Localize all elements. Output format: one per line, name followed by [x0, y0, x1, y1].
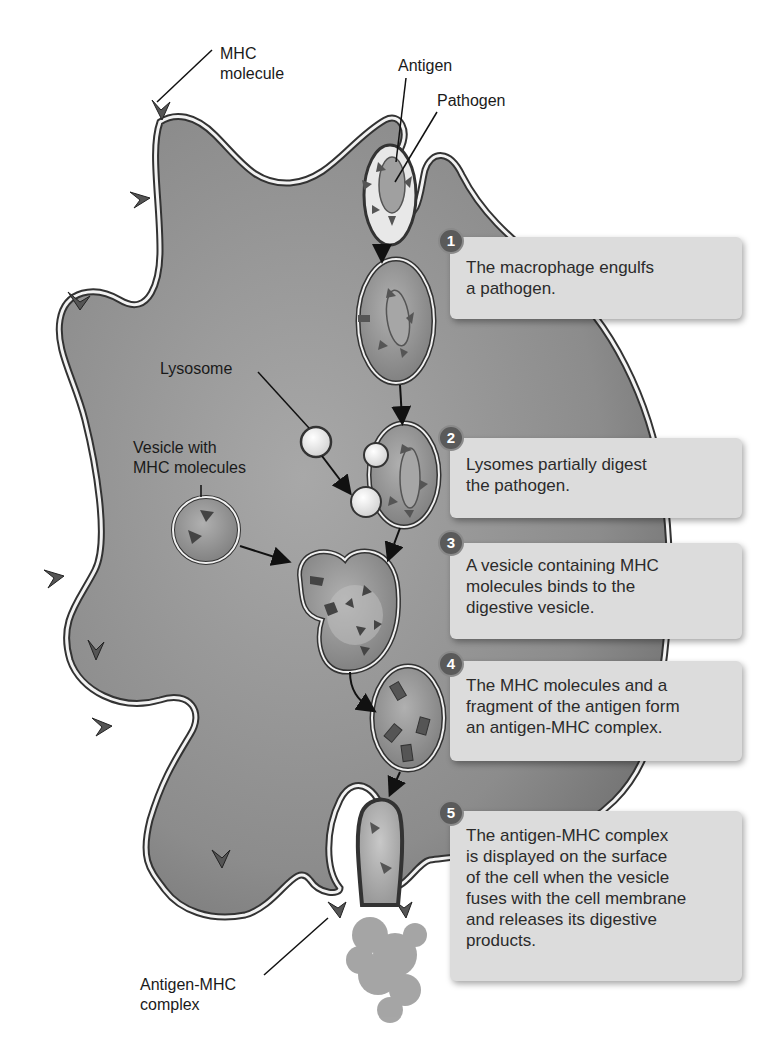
lysosome [301, 427, 331, 457]
step-1-box: The macrophage engulfs a pathogen. [450, 237, 742, 319]
pathogen-shape [379, 157, 405, 213]
step-5-badge: 5 [438, 800, 464, 826]
step-3-box: A vesicle containing MHC molecules binds… [450, 543, 742, 639]
step-5-box: The antigen-MHC complex is displayed on … [450, 811, 742, 981]
label-antigen: Antigen [398, 56, 452, 76]
step-4-box: The MHC molecules and a fragment of the … [450, 661, 742, 761]
label-lysosome: Lysosome [160, 359, 232, 379]
label-mhc-molecule: MHC molecule [220, 44, 284, 84]
step-4-badge: 4 [438, 651, 464, 677]
mhc-vesicle [173, 497, 239, 563]
label-antigen-mhc-complex: Antigen-MHC complex [140, 975, 236, 1015]
phagosome [358, 259, 434, 383]
step-3-badge: 3 [438, 530, 464, 556]
step-2-badge: 2 [438, 425, 464, 451]
label-vesicle-with-mhc: Vesicle with MHC molecules [133, 438, 246, 478]
antigen-mhc-vesicle [372, 666, 444, 770]
step-1-badge: 1 [438, 228, 464, 254]
label-pathogen: Pathogen [437, 91, 506, 111]
step-2-box: Lysomes partially digest the pathogen. [450, 438, 742, 518]
